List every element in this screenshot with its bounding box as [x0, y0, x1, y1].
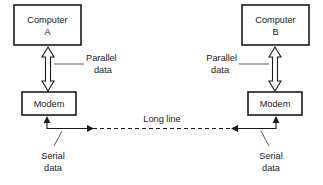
long-line-arrowhead-left — [87, 125, 94, 132]
modem-left-label: Modem — [34, 99, 65, 109]
serial-left-arrowhead — [44, 116, 51, 123]
annotation-parallel-data-left: Parallel data — [86, 53, 117, 75]
serial-path-right — [231, 116, 279, 132]
parallel-data-arrow-right — [269, 47, 281, 91]
serial-left-line2: data — [44, 163, 63, 173]
communication-diagram: Computer A Parallel data Modem Serial — [0, 0, 323, 185]
node-computer-a: Computer A — [14, 5, 81, 45]
serial-right-line2: data — [262, 163, 281, 173]
serial-left-elbow — [47, 128, 89, 129]
parallel-left-line2: data — [94, 65, 113, 75]
serial-left-line1: Serial — [41, 151, 65, 161]
computer-a-label-line2: A — [44, 27, 51, 37]
serial-right-arrowhead — [273, 116, 280, 123]
computer-a-box — [14, 5, 81, 45]
parallel-right-line2: data — [211, 65, 230, 75]
annotation-serial-data-right: Serial data — [259, 151, 283, 173]
long-line-label: Long line — [143, 114, 180, 124]
long-line-arrowhead-right — [231, 125, 238, 132]
parallel-right-line1: Parallel — [206, 53, 237, 63]
computer-b-label-line2: B — [272, 27, 278, 37]
serial-left-leader — [54, 131, 62, 146]
parallel-left-line1: Parallel — [86, 53, 117, 63]
serial-right-leader — [261, 131, 269, 146]
node-modem-left: Modem — [22, 92, 76, 115]
computer-b-label-line1: Computer — [255, 15, 295, 25]
modem-right-label: Modem — [260, 99, 291, 109]
diagram-canvas: Computer A Parallel data Modem Serial — [0, 0, 323, 185]
annotation-serial-data-left: Serial data — [41, 151, 65, 173]
serial-path-left — [44, 116, 94, 132]
annotation-parallel-data-right: Parallel data — [206, 53, 237, 75]
serial-right-line1: Serial — [259, 151, 283, 161]
node-computer-b: Computer B — [242, 5, 309, 45]
computer-b-box — [242, 5, 309, 45]
parallel-data-arrow-left — [42, 47, 54, 91]
node-modem-right: Modem — [248, 92, 302, 115]
computer-a-label-line1: Computer — [27, 15, 67, 25]
serial-right-elbow — [236, 128, 276, 129]
